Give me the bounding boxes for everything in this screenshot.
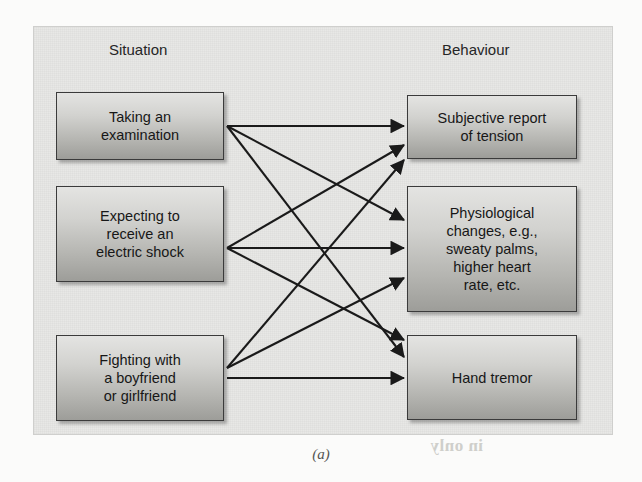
figure-page: sources soon became present in only Situ…	[0, 0, 642, 482]
node-label-line: receive an	[107, 226, 174, 242]
node-label: Taking an examination	[95, 108, 185, 144]
node-label: Physiological changes, e.g., sweaty palm…	[440, 204, 544, 294]
node-label-line: sweaty palms,	[446, 241, 538, 257]
situation-node-fighting-with-partner[interactable]: Fighting with a boyfriend or girlfriend	[56, 335, 224, 421]
situation-node-expecting-electric-shock[interactable]: Expecting to receive an electric shock	[56, 186, 224, 282]
behaviour-node-physiological-changes[interactable]: Physiological changes, e.g., sweaty palm…	[407, 186, 577, 312]
node-label-line: rate, etc.	[464, 277, 520, 293]
node-label-line: Physiological	[450, 205, 535, 221]
node-label-line: a boyfriend	[104, 370, 176, 386]
figure-caption: (a)	[0, 446, 642, 463]
node-label-line: or girlfriend	[104, 388, 177, 404]
situation-node-taking-an-examination[interactable]: Taking an examination	[56, 92, 224, 160]
node-label: Hand tremor	[446, 369, 539, 387]
node-label-line: electric shock	[96, 244, 184, 260]
behaviour-node-subjective-report-of-tension[interactable]: Subjective report of tension	[407, 95, 577, 159]
node-label-line: Fighting with	[99, 352, 180, 368]
column-header-situation: Situation	[109, 41, 167, 58]
node-label-line: higher heart	[453, 259, 530, 275]
node-label: Subjective report of tension	[432, 109, 553, 145]
node-label-line: Expecting to	[100, 208, 180, 224]
node-label: Fighting with a boyfriend or girlfriend	[93, 351, 186, 405]
node-label-line: Taking an	[109, 109, 171, 125]
node-label-line: of tension	[461, 128, 524, 144]
node-label-line: examination	[101, 127, 179, 143]
node-label-line: Subjective report	[438, 110, 547, 126]
behaviour-node-hand-tremor[interactable]: Hand tremor	[407, 335, 577, 420]
node-label: Expecting to receive an electric shock	[90, 207, 190, 261]
node-label-line: changes, e.g.,	[446, 223, 537, 239]
column-header-behaviour: Behaviour	[442, 41, 510, 58]
node-label-line: Hand tremor	[452, 370, 533, 386]
